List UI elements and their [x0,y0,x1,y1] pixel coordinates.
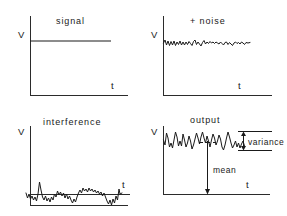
panel-signal-title: signal [56,16,85,26]
panel-signal: V t signal [18,16,128,96]
panel-output-title: output [190,115,220,125]
panel-interference-y-axis-label: V [18,126,25,137]
panel-interference-trace [26,182,122,205]
panel-output-mean-label: mean [213,165,236,175]
panel-signal-y-axis-label: V [18,29,25,40]
figure-four-panel-signal-diagram: V t signal V t + noise V t interference … [0,0,287,216]
panel-noise-axes [164,16,273,96]
panel-output-variance-arrow-head-up [241,132,246,137]
panel-noise: V t + noise [151,16,272,96]
panel-interference-x-axis-label: t [122,179,125,190]
panel-interference: V t interference [18,117,130,206]
panel-output-variance-label: variance [248,137,284,147]
panel-output-mean-arrow-head [205,189,210,195]
panel-noise-x-axis-label: t [238,80,241,91]
panel-output: variance mean V t output [151,115,284,195]
panel-output-trace [164,132,245,150]
panel-output-x-axis-label: t [246,179,249,190]
panel-signal-x-axis-label: t [111,80,114,91]
panel-output-y-axis-label: V [151,126,158,137]
panel-noise-title: + noise [190,16,226,26]
panel-output-variance-arrow-head-down [241,146,246,151]
panel-interference-axes [31,126,129,206]
figure-canvas: V t signal V t + noise V t interference … [0,0,287,216]
panel-noise-trace [164,40,251,46]
panel-interference-title: interference [43,117,101,127]
panel-noise-y-axis-label: V [151,29,158,40]
